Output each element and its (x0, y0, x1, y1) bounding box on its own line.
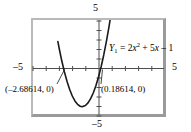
graphing-calculator-screenshot: 5 –5 –5 5 Y1 = 2x2 + 5x – 1 (–2.68614, 0… (0, 0, 191, 132)
axis-label-x-min: –5 (13, 62, 23, 72)
axis-label-x-max: 5 (172, 62, 177, 72)
axis-label-y-max: 5 (93, 3, 98, 13)
equation-plus-operator: + (142, 43, 147, 53)
annotation-right-x-intercept: (0.18614, 0) (101, 85, 145, 94)
plot-canvas (0, 0, 191, 132)
equation-legend: Y1 = 2x2 + 5x – 1 (109, 44, 173, 54)
equation-term1-variable: x (132, 43, 136, 53)
equation-equals: = (120, 43, 125, 53)
annotation-left-x-intercept: (–2.68614, 0) (5, 85, 54, 94)
leader-line-right-intercept (101, 70, 103, 85)
equation-constant: 1 (168, 43, 173, 53)
equation-term1-exponent: 2 (137, 41, 140, 48)
equation-function-subscript: 1 (114, 47, 117, 54)
equation-term2-variable: x (155, 43, 159, 53)
leader-line-left-intercept (57, 70, 65, 85)
equation-minus-operator: – (161, 43, 166, 53)
axis-label-y-min: –5 (92, 119, 102, 129)
